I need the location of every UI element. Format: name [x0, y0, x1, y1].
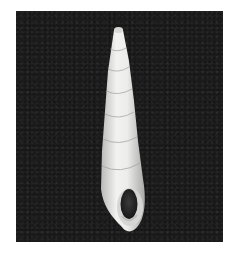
shell-aperture	[121, 189, 138, 219]
shell-apex	[114, 27, 123, 33]
specimen-photo	[16, 11, 223, 242]
shell-illustration	[16, 11, 223, 242]
